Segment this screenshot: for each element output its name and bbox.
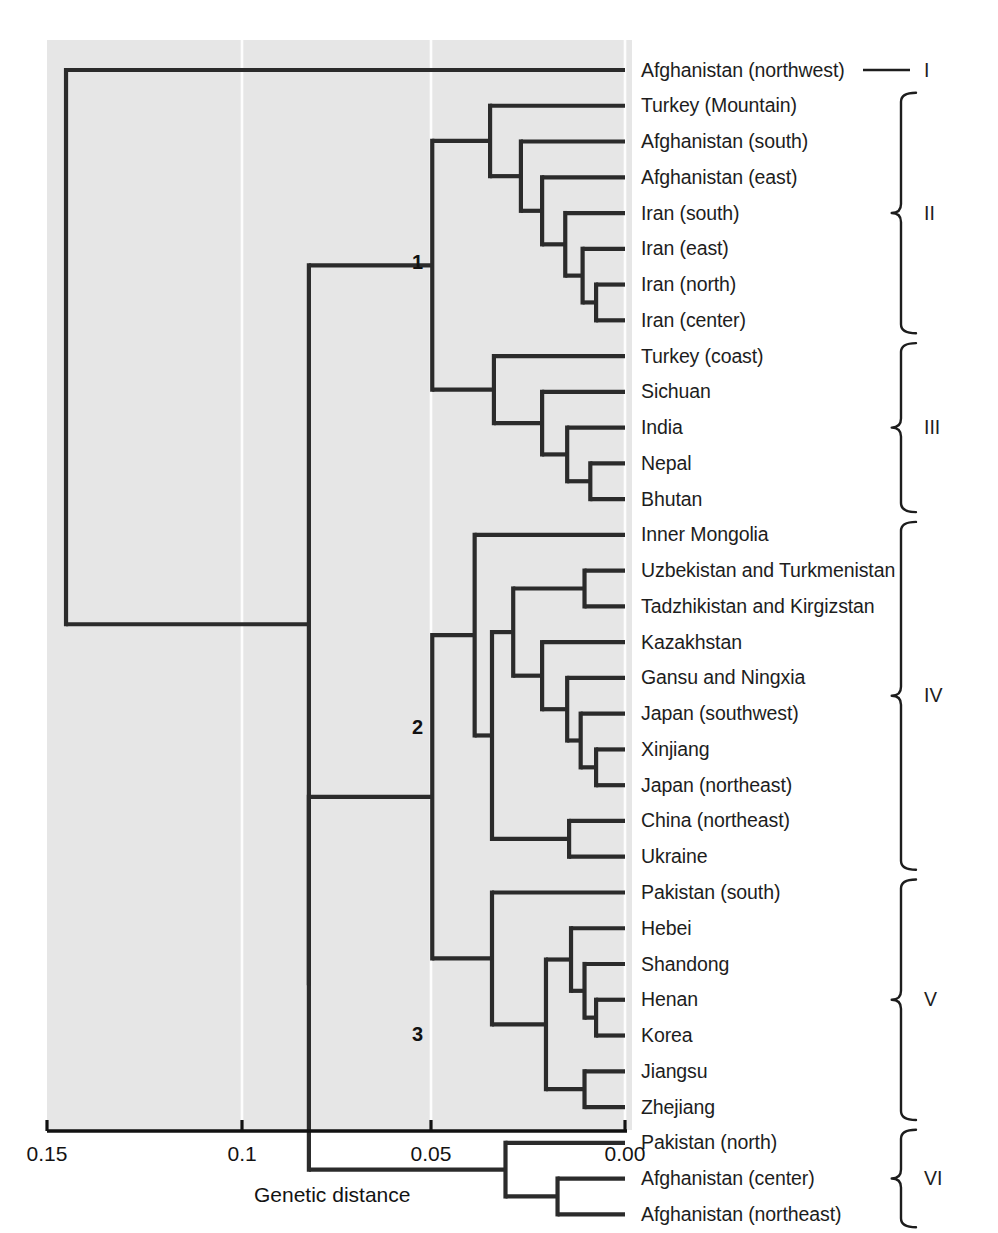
cluster-brace-IV [892,522,916,870]
cluster-brace-V [892,879,916,1120]
axis-title: Genetic distance [254,1184,410,1205]
tip-label: Afghanistan (northwest) [641,61,845,81]
tip-label: Ukraine [641,847,708,867]
node-number-1: 1 [412,252,423,272]
cluster-label-vi: VI [924,1169,942,1189]
cluster-label-iii: III [924,418,940,438]
tip-label: Japan (southwest) [641,704,799,724]
axis-tick-label: 0.00 [605,1143,646,1164]
tip-label: Inner Mongolia [641,525,769,545]
tip-label: China (northeast) [641,811,790,831]
axis-tick-label: 0.15 [27,1143,68,1164]
cluster-brace-III [892,343,916,512]
tip-label: Iran (center) [641,311,746,331]
cluster-label-iv: IV [924,686,942,706]
dendrogram-figure: Afghanistan (northwest)Turkey (Mountain)… [0,0,998,1233]
tip-label: Japan (northeast) [641,776,792,796]
tip-label: Uzbekistan and Turkmenistan [641,561,895,581]
cluster-label-ii: II [924,204,935,224]
axis-tick-label: 0.1 [228,1143,257,1164]
tip-label: Afghanistan (east) [641,168,797,188]
tip-label: Pakistan (north) [641,1133,777,1153]
tip-label: Sichuan [641,382,711,402]
tip-label: Nepal [641,454,691,474]
tip-label: India [641,418,683,438]
tip-label: Bhutan [641,490,702,510]
tip-label: Iran (south) [641,204,740,224]
cluster-brace-VI [892,1130,916,1228]
tip-label: Afghanistan (northeast) [641,1205,841,1225]
tip-label: Gansu and Ningxia [641,668,805,688]
tip-label: Turkey (coast) [641,347,763,367]
tip-label: Pakistan (south) [641,883,780,903]
tip-label: Zhejiang [641,1098,715,1118]
tip-label: Hebei [641,919,691,939]
tip-label: Tadzhikistan and Kirgizstan [641,597,875,617]
tip-label: Iran (north) [641,275,736,295]
cluster-brace-II [892,93,916,334]
cluster-label-v: V [924,990,937,1010]
tip-label: Kazakhstan [641,633,742,653]
tip-label: Afghanistan (center) [641,1169,815,1189]
tip-label: Jiangsu [641,1062,708,1082]
tip-label: Iran (east) [641,239,729,259]
cluster-label-i: I [924,61,929,81]
tip-label: Korea [641,1026,693,1046]
axis-tick-label: 0.05 [411,1143,452,1164]
tip-label: Henan [641,990,698,1010]
tip-label: Xinjiang [641,740,710,760]
tip-label: Turkey (Mountain) [641,96,797,116]
node-number-2: 2 [412,717,423,737]
tip-label: Afghanistan (south) [641,132,808,152]
node-number-3: 3 [412,1024,423,1044]
tip-label: Shandong [641,955,729,975]
